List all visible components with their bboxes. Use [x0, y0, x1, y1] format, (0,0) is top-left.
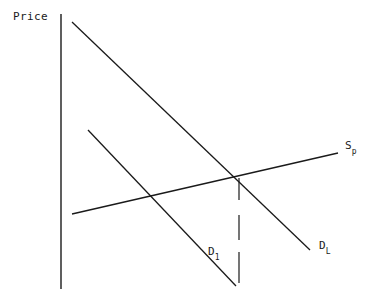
supply-demand-chart: Price Sp DL D1: [0, 0, 375, 289]
supply-curve-label-base: S: [345, 139, 352, 152]
demand-long-curve-label: DL: [319, 239, 330, 254]
demand-short-curve-label: D1: [208, 245, 219, 260]
supply-curve-sp: [72, 153, 338, 214]
supply-curve-label: Sp: [345, 139, 356, 154]
demand-long-curve-label-subscript: L: [326, 247, 331, 256]
demand-short-curve-label-subscript: 1: [215, 253, 220, 262]
demand-short-curve-label-base: D: [208, 245, 215, 258]
y-axis-label: Price: [13, 10, 48, 23]
demand-long-curve-label-base: D: [319, 239, 326, 252]
supply-curve-label-subscript: p: [352, 147, 357, 156]
demand-curve-d1: [88, 130, 236, 286]
demand-curve-dl: [72, 22, 310, 250]
